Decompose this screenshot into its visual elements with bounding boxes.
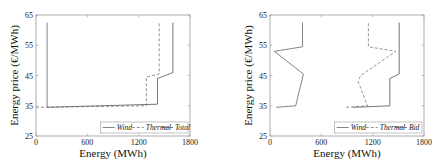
x-tick-label: 1200 bbox=[131, 138, 147, 147]
axes-frame bbox=[270, 15, 424, 136]
y-tick-label: 35 bbox=[25, 102, 33, 111]
chart-left: 2535455565060012001800Energy (MWh)Energy… bbox=[8, 11, 198, 160]
x-tick-label: 1200 bbox=[365, 138, 381, 147]
y-axis-label: Energy price (€/MWh) bbox=[242, 25, 255, 126]
y-tick-label: 35 bbox=[259, 102, 267, 111]
y-tick-label: 55 bbox=[25, 41, 33, 50]
x-axis-label: Energy (MWh) bbox=[79, 147, 147, 160]
y-tick-label: 25 bbox=[25, 132, 33, 141]
series-thermal bbox=[346, 23, 396, 108]
legend-entry-wind: Wind bbox=[351, 123, 367, 132]
x-axis-label: Energy (MWh) bbox=[313, 147, 381, 160]
series-thermal bbox=[36, 23, 159, 108]
chart-right: 2535455565060012001800Energy (MWh)Energy… bbox=[242, 11, 432, 160]
series-total bbox=[47, 23, 173, 108]
legend: WindThermalBid bbox=[335, 122, 422, 133]
legend-entry-total: Total bbox=[175, 123, 190, 132]
y-tick-label: 45 bbox=[259, 72, 267, 81]
legend-entry-wind: Wind bbox=[117, 123, 133, 132]
x-tick-label: 1800 bbox=[182, 138, 198, 147]
y-axis-label: Energy price (€/MWh) bbox=[8, 25, 21, 126]
y-tick-label: 45 bbox=[25, 72, 33, 81]
y-tick-label: 65 bbox=[25, 11, 33, 20]
x-tick-label: 0 bbox=[34, 138, 38, 147]
x-tick-label: 1800 bbox=[416, 138, 432, 147]
x-tick-label: 600 bbox=[315, 138, 327, 147]
x-tick-label: 0 bbox=[268, 138, 272, 147]
series-wind bbox=[274, 23, 303, 108]
figure: 2535455565060012001800Energy (MWh)Energy… bbox=[0, 0, 442, 163]
axes-frame bbox=[36, 15, 190, 136]
legend: WindThermalTotal bbox=[101, 122, 190, 133]
y-tick-label: 25 bbox=[259, 132, 267, 141]
legend-entry-bid: Bid bbox=[409, 123, 420, 132]
y-tick-label: 65 bbox=[259, 11, 267, 20]
y-tick-label: 55 bbox=[259, 41, 267, 50]
x-tick-label: 600 bbox=[81, 138, 93, 147]
